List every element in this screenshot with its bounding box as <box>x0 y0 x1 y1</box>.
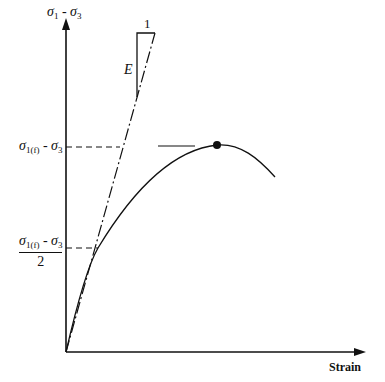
y-axis-label: σ1 - σ3 <box>47 4 81 21</box>
stress-strain-curve <box>66 145 275 352</box>
stress-strain-diagram <box>0 0 385 382</box>
half-peak-numerator: σ1(f) - σ3 <box>19 233 62 248</box>
slope-modulus-label: E <box>124 62 133 78</box>
slope-run-label: 1 <box>144 16 151 32</box>
secant-modulus-line <box>66 33 155 352</box>
peak-stress-label: σ1(f) - σ3 <box>19 138 62 155</box>
x-axis-arrow-icon <box>354 348 366 356</box>
x-axis-label: Strain <box>329 360 361 375</box>
half-peak-denominator: 2 <box>19 252 62 270</box>
peak-point <box>213 141 221 149</box>
half-peak-stress-label: σ1(f) - σ3 2 <box>19 233 62 270</box>
